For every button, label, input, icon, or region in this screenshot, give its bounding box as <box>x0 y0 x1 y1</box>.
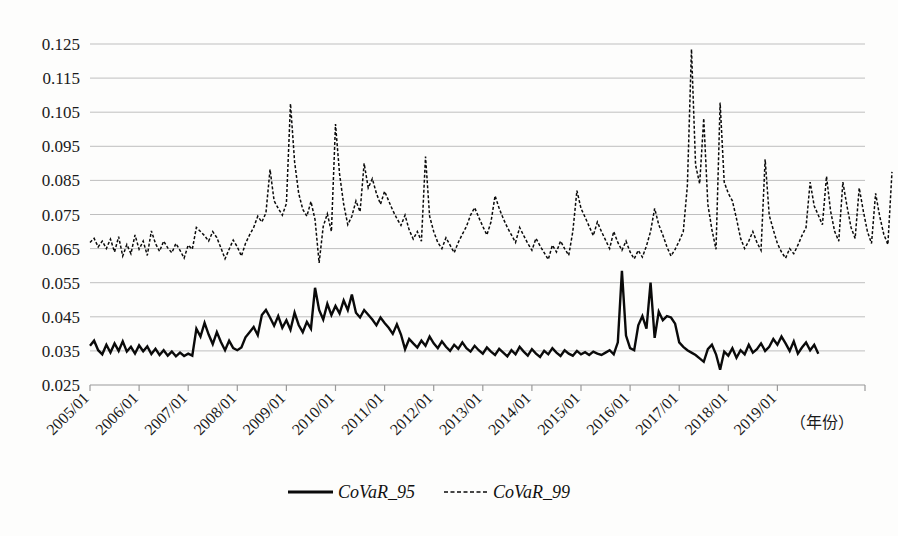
x-tick-label: 2007/01 <box>141 389 190 438</box>
x-tick-label: 2006/01 <box>92 389 141 438</box>
y-tick-label: 0.025 <box>42 376 80 395</box>
x-tick-label: 2010/01 <box>289 389 338 438</box>
y-axis-tick-labels: 0.1250.1150.1050.0950.0850.0750.0650.055… <box>42 35 80 395</box>
x-tick-label: 2017/01 <box>632 389 681 438</box>
x-tick-label: 2018/01 <box>681 389 730 438</box>
data-series <box>90 49 892 370</box>
x-tick-label: 2019/01 <box>730 389 779 438</box>
series-line-covar_95 <box>90 271 818 370</box>
x-tick-label: 2014/01 <box>485 389 534 438</box>
y-tick-label: 0.075 <box>42 206 80 225</box>
y-tick-label: 0.065 <box>42 240 80 259</box>
y-tick-label: 0.035 <box>42 342 80 361</box>
x-axis-tick-labels: 2005/012006/012007/012008/012009/012010/… <box>43 389 780 438</box>
x-tick-label: 2005/01 <box>43 389 92 438</box>
series-line-covar_99 <box>90 49 892 263</box>
y-tick-label: 0.055 <box>42 274 80 293</box>
y-tick-label: 0.105 <box>42 103 80 122</box>
legend-label-covar95: CoVaR_95 <box>338 482 415 502</box>
x-tick-label: 2016/01 <box>583 389 632 438</box>
y-tick-label: 0.085 <box>42 171 80 190</box>
x-axis <box>90 385 865 391</box>
chart-figure: 0.1250.1150.1050.0950.0850.0750.0650.055… <box>0 0 898 536</box>
y-tick-label: 0.115 <box>42 69 80 88</box>
x-tick-label: 2011/01 <box>338 389 387 438</box>
x-tick-label: 2013/01 <box>436 389 485 438</box>
x-tick-label: 2012/01 <box>387 389 436 438</box>
y-tick-label: 0.095 <box>42 137 80 156</box>
chart-canvas: 0.1250.1150.1050.0950.0850.0750.0650.055… <box>0 0 898 536</box>
y-tick-label: 0.125 <box>42 35 80 54</box>
x-tick-label: 2008/01 <box>190 389 239 438</box>
legend-label-covar99: CoVaR_99 <box>493 482 570 502</box>
chart-legend: CoVaR_95 CoVaR_99 <box>288 482 570 502</box>
x-tick-label: 2009/01 <box>239 389 288 438</box>
x-tick-label: 2015/01 <box>534 389 583 438</box>
y-tick-label: 0.045 <box>42 308 80 327</box>
x-axis-unit-label: （年份） <box>790 414 854 431</box>
